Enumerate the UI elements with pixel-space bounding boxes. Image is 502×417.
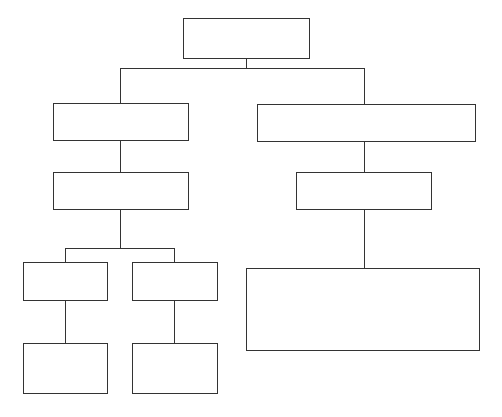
- power-of-intellect-box: [132, 262, 218, 301]
- rationalism-box: [132, 343, 218, 394]
- connector-power-up: [174, 248, 175, 262]
- connector-sensory-up: [65, 248, 66, 262]
- connector-trad-acquired: [120, 210, 121, 248]
- root-question-box: [183, 18, 310, 59]
- traditional-assumption-box: [53, 172, 189, 210]
- connector-trad-branch: [65, 248, 175, 249]
- connector-sensory-down: [65, 300, 66, 344]
- traditional-premise-box: [53, 103, 189, 141]
- connector-cont-acquired: [364, 210, 365, 268]
- connector-root-split: [120, 68, 365, 69]
- sensory-evidence-box: [23, 262, 108, 301]
- contemporary-premise-box: [257, 104, 476, 142]
- connector-trad-down: [120, 68, 121, 104]
- contemporary-assumption-box: [296, 172, 432, 210]
- contemporary-method-box: [246, 268, 480, 351]
- connector-root-down: [246, 58, 247, 68]
- connector-trad-assumes: [120, 140, 121, 172]
- connector-power-down: [174, 300, 175, 344]
- empiricism-box: [23, 343, 108, 394]
- connector-cont-down: [364, 68, 365, 104]
- connector-cont-assumes: [364, 141, 365, 172]
